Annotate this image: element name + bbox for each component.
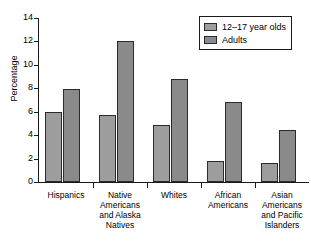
legend-item: Adults: [204, 33, 286, 46]
x-axis-tick-label: AfricanAmericans: [198, 190, 258, 210]
x-axis-line: [38, 182, 309, 183]
x-axis-tick-label: Whites: [144, 190, 204, 200]
y-axis-tick-label: 4: [28, 129, 33, 139]
bar: [279, 130, 296, 182]
bar-group: [39, 18, 93, 182]
y-axis-title: Percentage: [10, 39, 19, 119]
bar: [45, 112, 62, 182]
x-axis-tick-mark: [147, 183, 148, 188]
x-axis-tick-label: AsianAmericansand PacificIslanders: [252, 190, 311, 230]
bar: [99, 115, 116, 182]
y-axis-tick-label: 8: [28, 82, 33, 92]
bar: [63, 89, 80, 182]
y-axis-tick-label: 14: [23, 12, 33, 22]
x-axis-tick-label: NativeAmericansand AlaskaNatives: [90, 190, 150, 230]
bar-group: [93, 18, 147, 182]
x-axis-tick-mark: [255, 183, 256, 188]
bar: [153, 125, 170, 182]
y-axis-tick-label: 6: [28, 106, 33, 116]
y-axis-tick-label: 2: [28, 153, 33, 163]
legend-item-label: 12–17 year olds: [222, 22, 286, 32]
y-axis-tick-label: 12: [23, 35, 33, 45]
bar: [225, 102, 242, 182]
bar-chart: Percentage 02468101214 HispanicsNativeAm…: [0, 0, 311, 245]
chart-title: [56, 0, 266, 2]
legend-swatch-icon: [204, 36, 217, 44]
y-axis-tick-label: 0: [28, 176, 33, 186]
legend-item-label: Adults: [222, 35, 247, 45]
bar: [261, 163, 278, 182]
x-axis-tick-label: Hispanics: [36, 190, 96, 200]
x-axis-tick-mark: [201, 183, 202, 188]
x-axis-tick-mark: [93, 183, 94, 188]
y-axis-tick-label: 10: [23, 59, 33, 69]
legend-swatch-icon: [204, 23, 217, 31]
bar: [117, 41, 134, 182]
bar: [207, 161, 224, 182]
bar: [171, 79, 188, 182]
legend-item: 12–17 year olds: [204, 20, 286, 33]
bar-group: [147, 18, 201, 182]
legend: 12–17 year olds Adults: [199, 16, 292, 50]
